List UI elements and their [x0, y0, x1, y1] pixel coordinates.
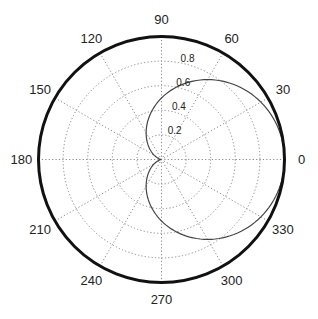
radial-tick-label: 0.8	[181, 53, 195, 64]
angle-tick-label: 150	[29, 82, 51, 97]
radial-tick-label: 0.2	[168, 125, 182, 136]
polar-plot: 0306090120150180210240270300330 0.20.40.…	[0, 0, 318, 319]
angle-tick-label: 30	[276, 82, 290, 97]
angle-tick-label: 120	[81, 31, 103, 46]
radial-tick-labels: 0.20.40.60.8	[168, 53, 195, 137]
angle-tick-label: 180	[10, 152, 32, 167]
radial-tick-label: 0.4	[172, 101, 186, 112]
angle-tick-label: 270	[151, 292, 173, 307]
angle-tick-label: 210	[29, 222, 51, 237]
angle-tick-label: 300	[221, 273, 243, 288]
angle-tick-label: 0	[298, 152, 305, 167]
angle-tick-label: 60	[224, 31, 238, 46]
angle-tick-label: 330	[272, 222, 294, 237]
angle-tick-label: 90	[154, 12, 168, 27]
angle-tick-label: 240	[81, 273, 103, 288]
radial-tick-label: 0.6	[176, 77, 190, 88]
